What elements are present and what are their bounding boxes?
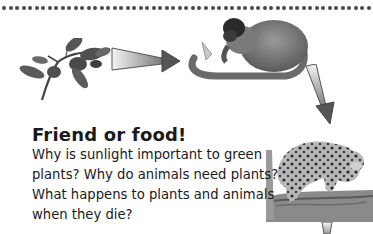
dot — [48, 6, 52, 10]
dot — [113, 6, 117, 10]
arrow-down-icon — [320, 222, 334, 234]
dot — [126, 6, 130, 10]
dot — [54, 6, 58, 10]
dot — [367, 6, 371, 10]
dot — [119, 6, 123, 10]
dot — [250, 6, 254, 10]
dot — [145, 6, 149, 10]
dot — [347, 6, 351, 10]
dot — [341, 6, 345, 10]
plant-branch-image — [18, 38, 113, 103]
dot — [152, 6, 156, 10]
dot — [80, 6, 84, 10]
dot — [35, 6, 39, 10]
dot — [289, 6, 293, 10]
jaguar-image — [266, 130, 373, 222]
dot — [178, 6, 182, 10]
dot — [256, 6, 260, 10]
dot — [230, 6, 234, 10]
dot — [295, 6, 299, 10]
dot — [224, 6, 228, 10]
dot — [269, 6, 273, 10]
dot — [211, 6, 215, 10]
dot — [217, 6, 221, 10]
dot — [321, 6, 325, 10]
dot — [139, 6, 143, 10]
dot — [158, 6, 162, 10]
dot — [315, 6, 319, 10]
dot — [184, 6, 188, 10]
dot — [191, 6, 195, 10]
section-body: Why is sunlight important to green plant… — [32, 145, 277, 225]
dot — [171, 6, 175, 10]
dot — [334, 6, 338, 10]
dotted-rule — [0, 6, 373, 12]
dot — [93, 6, 97, 10]
dot — [360, 6, 364, 10]
dot — [197, 6, 201, 10]
dot — [9, 6, 13, 10]
body-line: when they die? — [32, 205, 277, 225]
arrow-right-icon — [110, 44, 182, 76]
dot — [282, 6, 286, 10]
dot — [22, 6, 26, 10]
dot — [132, 6, 136, 10]
dot — [263, 6, 267, 10]
dot — [28, 6, 32, 10]
dot — [328, 6, 332, 10]
dot — [354, 6, 358, 10]
dot — [302, 6, 306, 10]
body-line: Why is sunlight important to green — [32, 145, 277, 165]
arrow-down-right-icon — [300, 64, 340, 126]
dot — [237, 6, 241, 10]
dot — [106, 6, 110, 10]
dot — [15, 6, 19, 10]
dot — [276, 6, 280, 10]
section-title: Friend or food! — [32, 124, 187, 145]
body-line: plants? Why do animals need plants? — [32, 165, 277, 185]
dot — [67, 6, 71, 10]
dot — [243, 6, 247, 10]
dot — [87, 6, 91, 10]
dot — [165, 6, 169, 10]
dot — [204, 6, 208, 10]
monkey-image — [186, 18, 311, 80]
body-line: What happens to plants and animals — [32, 185, 277, 205]
dot — [41, 6, 45, 10]
dot — [61, 6, 65, 10]
dot — [74, 6, 78, 10]
dot — [308, 6, 312, 10]
dot — [2, 6, 6, 10]
dot — [100, 6, 104, 10]
